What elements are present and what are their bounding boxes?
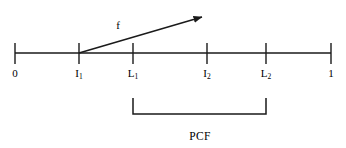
tick-I1-label: I1 — [75, 68, 82, 79]
pcf-bracket-shape — [133, 98, 266, 114]
tick-I2-label: I2 — [203, 68, 210, 79]
tick-L2-label: L2 — [261, 68, 271, 79]
tick-I2-subscript: 2 — [207, 72, 211, 81]
tick-1-label: 1 — [328, 68, 334, 79]
map-arrow-label: f — [116, 20, 120, 31]
figure-canvas — [0, 0, 346, 148]
tick-L1-subscript: 1 — [134, 72, 138, 81]
tick-L1-label: L1 — [128, 68, 138, 79]
tick-0-label: 0 — [12, 68, 18, 79]
tick-I1-subscript: 1 — [79, 72, 83, 81]
tick-L2-subscript: 2 — [267, 72, 271, 81]
pcf-bracket-label: PCF — [189, 131, 210, 143]
map-arrow-f — [79, 17, 202, 53]
interval-map-figure: 0I1L1I2L21 f PCF — [0, 0, 346, 148]
